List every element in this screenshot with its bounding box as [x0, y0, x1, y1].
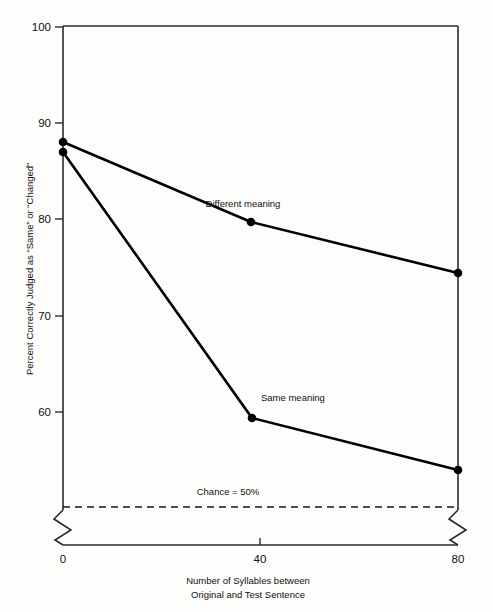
- xtick-label-80: 80: [452, 553, 465, 565]
- ytick-label-90: 90: [38, 117, 51, 129]
- series-label-same-meaning: Same meaning: [261, 392, 325, 403]
- x-axis-title-line1: Number of Syllables between: [186, 575, 310, 586]
- ytick-label-100: 100: [32, 21, 51, 33]
- data-point-different-40: [247, 218, 256, 227]
- axis-break-left: [54, 510, 71, 545]
- data-point-different-0: [59, 138, 68, 147]
- data-point-same-40: [248, 414, 257, 423]
- ytick-label-60: 60: [38, 406, 51, 418]
- ytick-label-70: 70: [38, 310, 51, 322]
- x-axis-title-line2: Original and Test Sentence: [191, 589, 305, 600]
- chance-line-label: Chance = 50%: [197, 486, 260, 497]
- line-chart: 100 90 80 70 60 0 40 80 Chance = 50% Dif…: [0, 0, 493, 612]
- figure-container: 100 90 80 70 60 0 40 80 Chance = 50% Dif…: [0, 0, 493, 612]
- xtick-label-0: 0: [60, 553, 66, 565]
- data-point-different-80: [454, 269, 463, 278]
- data-point-same-80: [454, 466, 463, 475]
- data-point-same-0: [59, 148, 68, 157]
- y-axis-title: Percent Correctly Judged as “Same” or “C…: [24, 163, 35, 375]
- series-label-different-meaning: Different meaning: [206, 198, 281, 209]
- axis-break-right: [449, 510, 466, 545]
- ytick-label-80: 80: [38, 213, 51, 225]
- xtick-label-40: 40: [254, 553, 267, 565]
